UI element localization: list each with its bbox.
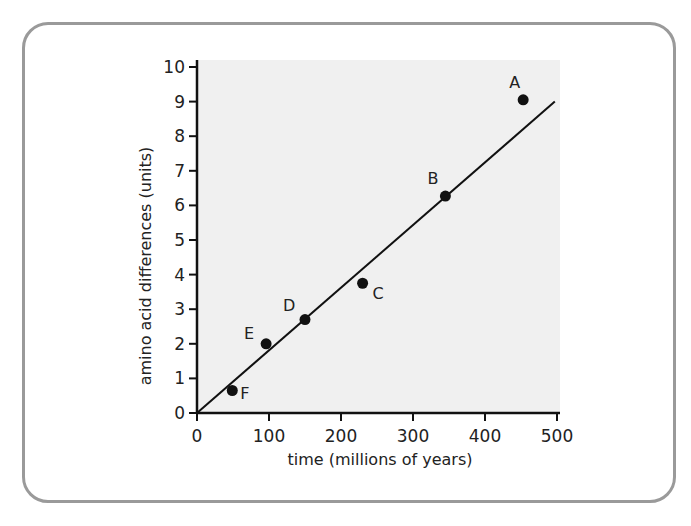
x-tick-label: 400 [469, 426, 501, 446]
x-tick-label: 500 [541, 426, 573, 446]
point-label-b: B [427, 169, 438, 188]
y-tick-label: 4 [174, 265, 185, 285]
y-tick-label: 5 [174, 230, 185, 250]
data-point-a [518, 94, 529, 105]
x-tick-label: 300 [397, 426, 429, 446]
point-label-c: C [373, 284, 384, 303]
y-tick-label: 1 [174, 368, 185, 388]
y-tick-label: 2 [174, 334, 185, 354]
plot-area [197, 60, 560, 413]
y-tick-label: 0 [174, 403, 185, 423]
data-point-f [227, 385, 238, 396]
point-label-d: D [283, 296, 295, 315]
point-label-f: F [240, 384, 249, 403]
data-point-b [440, 191, 451, 202]
y-tick-label: 9 [174, 92, 185, 112]
point-label-e: E [244, 324, 254, 343]
y-axis-title: amino acid differences (units) [136, 147, 155, 386]
chart: 0123456789100100200300400500time (millio… [0, 0, 691, 526]
data-point-d [300, 314, 311, 325]
x-tick-label: 100 [253, 426, 285, 446]
y-tick-label: 6 [174, 195, 185, 215]
y-tick-label: 7 [174, 161, 185, 181]
y-tick-label: 3 [174, 299, 185, 319]
x-tick-label: 200 [325, 426, 357, 446]
y-tick-label: 10 [163, 57, 185, 77]
data-point-e [261, 338, 272, 349]
point-label-a: A [509, 73, 520, 92]
y-tick-label: 8 [174, 126, 185, 146]
x-tick-label: 0 [192, 426, 203, 446]
x-axis-title: time (millions of years) [288, 450, 473, 469]
data-point-c [357, 278, 368, 289]
